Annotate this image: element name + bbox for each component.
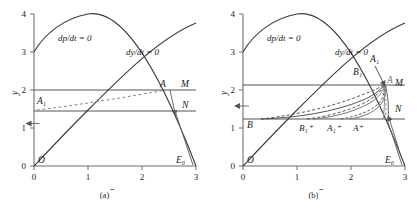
label-dydt-b: dy/dt = 0 (335, 47, 369, 57)
y-ticks-b (239, 14, 243, 166)
y-axis-label-a: y (10, 90, 20, 96)
y-ticklabel-b-0: 0 (231, 161, 236, 171)
label-B1-b: B₁ (353, 67, 362, 77)
label-dpdt-a: dp/dt = 0 (58, 33, 92, 43)
y-ticklabel-a-4: 4 (22, 9, 27, 19)
x-ticklabel-a-0: 0 (32, 172, 37, 182)
label-dpdt-b: dp/dt = 0 (267, 33, 301, 43)
label-B-b: B (247, 120, 253, 130)
label-Aplus-b: A⁺ (352, 123, 364, 133)
x-ticklabel-a-1: 1 (86, 172, 91, 182)
label-B1plus-b: B₁⁺ (299, 123, 314, 133)
label-O-b: O (247, 155, 254, 165)
plot-a: 0 1 2 3 4 0 1 2 3 y p (0, 0, 209, 190)
y-ticklabel-b-1: 1 (231, 123, 236, 133)
y-axis-label-b: y (219, 90, 229, 96)
label-A1plus-b: A₁⁺ (326, 123, 342, 133)
x-ticklabel-a-3: 3 (194, 172, 199, 182)
y-ticklabel-b-4: 4 (231, 9, 236, 19)
figure-container: 0 1 2 3 4 0 1 2 3 y p (0, 0, 418, 208)
y-ticklabel-b-2: 2 (231, 85, 236, 95)
label-N-a: N (181, 100, 189, 110)
loop-solid-outer-b (261, 85, 384, 119)
y-ticklabel-a-0: 0 (22, 161, 27, 171)
loop-dashed-outer-b (261, 85, 383, 119)
x-ticklabel-b-0: 0 (241, 172, 246, 182)
y-ticks-a (30, 14, 34, 166)
label-A1-b: A₁ (369, 54, 379, 64)
x-ticklabel-a-2: 2 (140, 172, 145, 182)
panel-a-caption: (a) (0, 190, 209, 200)
trajectory-dashed-a (37, 90, 166, 110)
y-ticklabel-a-2: 2 (22, 85, 27, 95)
label-E0-a: E₀ (175, 155, 185, 165)
x-ticklabel-b-1: 1 (295, 172, 300, 182)
label-E0-b: E₀ (384, 155, 394, 165)
label-O-a: O (38, 155, 45, 165)
arrow-E0-to-N-b (389, 118, 399, 150)
x-ticklabel-b-3: 3 (403, 172, 408, 182)
label-dydt-a: dy/dt = 0 (126, 47, 160, 57)
panel-a: 0 1 2 3 4 0 1 2 3 y p (0, 0, 209, 208)
label-A1-a: A₁ (36, 96, 46, 106)
y-ticklabel-a-1: 1 (22, 123, 27, 133)
label-A-a: A (159, 79, 166, 89)
label-M-b: M (394, 78, 404, 88)
curve-dydt-b (243, 23, 405, 166)
y-ticklabel-b-3: 3 (231, 47, 236, 57)
label-A-b: A (386, 75, 393, 85)
label-M-a: M (180, 79, 190, 89)
x-ticks-b (243, 166, 405, 170)
y-ticklabel-a-3: 3 (22, 47, 27, 57)
x-ticklabel-b-2: 2 (349, 172, 354, 182)
panel-b: 0 1 2 3 4 0 1 2 3 y p (209, 0, 418, 208)
curve-dydt-a (34, 23, 196, 166)
panel-b-caption: (b) (209, 190, 418, 200)
arrow-A1-to-A-b (375, 66, 384, 84)
label-N-b: N (394, 104, 402, 114)
x-ticks-a (34, 166, 196, 170)
plot-b: 0 1 2 3 4 0 1 2 3 y p (209, 0, 418, 190)
